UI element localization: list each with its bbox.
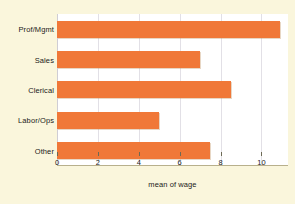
bar-row — [57, 105, 288, 135]
bar — [57, 51, 200, 68]
x-tick-mark — [180, 152, 181, 156]
x-tick-mark — [221, 152, 222, 156]
x-tick-label: 2 — [96, 158, 100, 167]
bar — [57, 21, 280, 38]
x-tick-label: 4 — [137, 158, 141, 167]
x-tick-label: 8 — [218, 158, 222, 167]
bar-row — [57, 44, 288, 74]
bar — [57, 142, 210, 159]
x-tick-label: 0 — [55, 158, 59, 167]
bar-row — [57, 136, 288, 166]
category-label: Other — [0, 146, 54, 155]
bar-row — [57, 75, 288, 105]
category-label: Prof/Mgmt — [0, 25, 54, 34]
plot-area — [57, 14, 288, 166]
category-label: Clerical — [0, 86, 54, 95]
bar-chart: 0246810 Prof/MgmtSalesClericalLabor/OpsO… — [0, 0, 295, 204]
bar — [57, 112, 159, 129]
x-tick-mark — [261, 152, 262, 156]
x-axis-title: mean of wage — [57, 180, 288, 189]
x-tick-label: 6 — [178, 158, 182, 167]
x-tick-mark — [139, 152, 140, 156]
x-tick-label: 10 — [257, 158, 265, 167]
bar — [57, 81, 231, 98]
bar-row — [57, 14, 288, 44]
category-label: Sales — [0, 55, 54, 64]
x-tick-mark — [57, 152, 58, 156]
category-label: Labor/Ops — [0, 116, 54, 125]
x-tick-mark — [98, 152, 99, 156]
